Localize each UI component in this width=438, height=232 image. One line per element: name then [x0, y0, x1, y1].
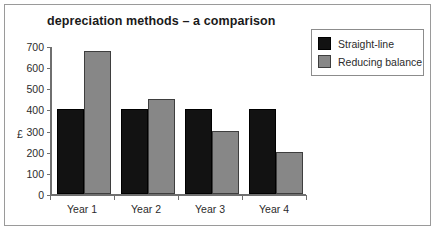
- x-tick-mark: [50, 195, 51, 200]
- chart-legend: Straight-line Reducing balance: [311, 29, 424, 76]
- y-tick-mark: [47, 174, 50, 175]
- bar-straight-line-1: [57, 109, 84, 194]
- black-swatch-icon: [318, 37, 331, 50]
- x-category-label: Year 1: [67, 203, 97, 215]
- bar-reducing-balance-1: [84, 51, 111, 194]
- legend-label: Straight-line: [338, 38, 394, 50]
- y-tick-mark: [47, 132, 50, 133]
- bar-reducing-balance-3: [212, 131, 239, 194]
- x-category-label: Year 4: [259, 203, 289, 215]
- x-tick-mark: [242, 195, 243, 200]
- chart-title: depreciation methods – a comparison: [47, 14, 276, 28]
- y-tick-label: 300: [26, 126, 44, 138]
- bar-straight-line-4: [249, 109, 276, 194]
- x-category-label: Year 2: [131, 203, 161, 215]
- y-tick-mark: [47, 89, 50, 90]
- legend-item-reducing-balance: Reducing balance: [318, 54, 418, 69]
- y-tick-label: 400: [26, 104, 44, 116]
- chart-container: depreciation methods – a comparison 7006…: [0, 0, 438, 232]
- x-tick-mark: [114, 195, 115, 200]
- y-tick-mark: [47, 68, 50, 69]
- bar-straight-line-2: [121, 109, 148, 194]
- y-tick-label: 0: [38, 189, 44, 201]
- y-tick-mark: [47, 153, 50, 154]
- x-category-label: Year 3: [195, 203, 225, 215]
- gray-swatch-icon: [318, 55, 331, 68]
- x-tick-mark: [306, 195, 307, 200]
- legend-label: Reducing balance: [338, 56, 422, 68]
- y-axis-label: £: [17, 128, 23, 140]
- y-tick-mark: [47, 110, 50, 111]
- y-tick-label: 600: [26, 62, 44, 74]
- y-tick-mark: [47, 47, 50, 48]
- y-axis-line: [50, 47, 52, 195]
- y-tick-label: 100: [26, 168, 44, 180]
- bar-straight-line-3: [185, 109, 212, 194]
- x-tick-mark: [178, 195, 179, 200]
- y-tick-label: 200: [26, 147, 44, 159]
- bar-reducing-balance-2: [148, 99, 175, 194]
- bar-reducing-balance-4: [276, 152, 303, 194]
- y-tick-label: 500: [26, 83, 44, 95]
- legend-item-straight-line: Straight-line: [318, 36, 418, 51]
- y-tick-label: 700: [26, 41, 44, 53]
- plot-area: 7006005004003002001000 Year 1Year 2Year …: [50, 47, 306, 195]
